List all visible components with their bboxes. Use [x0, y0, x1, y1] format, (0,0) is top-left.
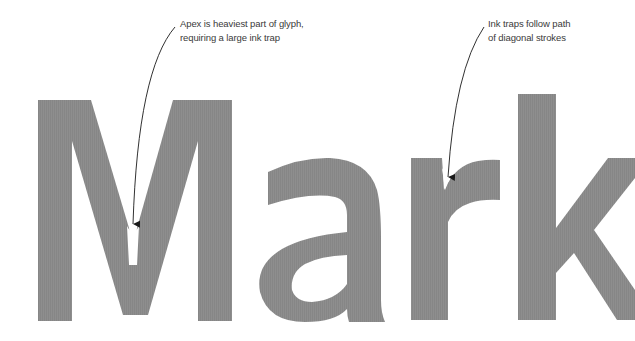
glyph-a: [259, 158, 385, 322]
annotation-apex-line-1: Apex is heaviest part of glyph,: [180, 17, 304, 31]
ink-trap-M-vertex: [127, 226, 139, 265]
mark-glyph-figure: [0, 0, 635, 341]
glyph-M: [38, 100, 232, 321]
annotation-ink-traps: Ink traps follow path of diagonal stroke…: [488, 17, 570, 45]
annotation-ink-traps-line-2: of diagonal strokes: [488, 31, 570, 45]
arrow-ink-traps: [448, 27, 484, 177]
annotation-apex: Apex is heaviest part of glyph, requirin…: [180, 17, 304, 45]
glyph-k: [518, 94, 635, 320]
annotation-ink-traps-line-1: Ink traps follow path: [488, 17, 570, 31]
annotation-apex-line-2: requiring a large ink trap: [180, 31, 304, 45]
glyph-r: [411, 158, 500, 320]
